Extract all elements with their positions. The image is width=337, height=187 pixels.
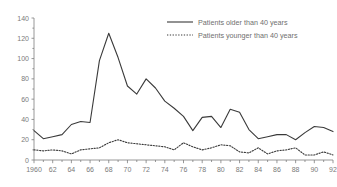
x-tick-label: 80 xyxy=(217,166,225,173)
legend-label-1: Patients older than 40 years xyxy=(198,18,288,27)
y-axis: 020406080100120140 xyxy=(17,15,34,164)
legend-label-2: Patients younger than 40 years xyxy=(198,31,298,40)
series-line-2 xyxy=(34,140,333,155)
chart-container: 020406080100120140 196062646668707274767… xyxy=(0,0,337,187)
x-tick-label: 78 xyxy=(198,166,206,173)
chart-legend: Patients older than 40 yearsPatients you… xyxy=(167,18,298,40)
x-tick-label: 88 xyxy=(292,166,300,173)
x-tick-label: 86 xyxy=(273,166,281,173)
x-tick-label: 74 xyxy=(161,166,169,173)
y-tick-label: 60 xyxy=(21,96,29,103)
x-tick-label: 82 xyxy=(236,166,244,173)
x-tick-label: 84 xyxy=(254,166,262,173)
x-tick-label: 68 xyxy=(105,166,113,173)
x-tick-label: 66 xyxy=(86,166,94,173)
x-tick-label: 70 xyxy=(124,166,132,173)
line-chart: 020406080100120140 196062646668707274767… xyxy=(0,0,337,187)
y-tick-label: 100 xyxy=(17,55,29,62)
x-tick-label: 72 xyxy=(142,166,150,173)
x-tick-label: 1960 xyxy=(26,166,42,173)
y-tick-label: 120 xyxy=(17,35,29,42)
x-tick-label: 92 xyxy=(329,166,337,173)
series-line-1 xyxy=(34,33,333,140)
y-tick-label: 80 xyxy=(21,75,29,82)
y-tick-label: 0 xyxy=(25,157,29,164)
x-tick-label: 90 xyxy=(310,166,318,173)
x-axis: 196062646668707274767880828486889092 xyxy=(26,160,337,173)
x-tick-label: 64 xyxy=(67,166,75,173)
y-tick-label: 20 xyxy=(21,136,29,143)
x-tick-label: 62 xyxy=(49,166,57,173)
series-layer xyxy=(34,33,333,155)
y-tick-label: 40 xyxy=(21,116,29,123)
y-tick-label: 140 xyxy=(17,15,29,22)
x-tick-label: 76 xyxy=(180,166,188,173)
